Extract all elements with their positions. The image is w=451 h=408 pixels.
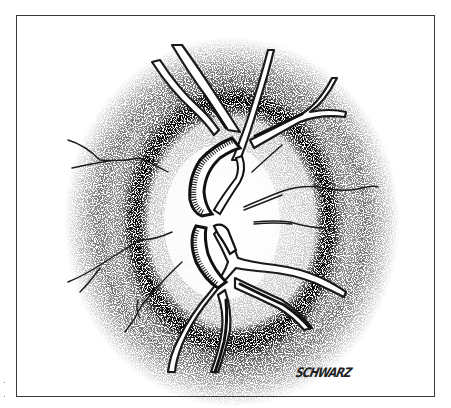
optic-disc-illustration — [0, 0, 451, 408]
artist-signature: SCHWARZ — [294, 365, 352, 381]
scan-speck — [4, 396, 5, 397]
scan-speck — [4, 382, 5, 383]
